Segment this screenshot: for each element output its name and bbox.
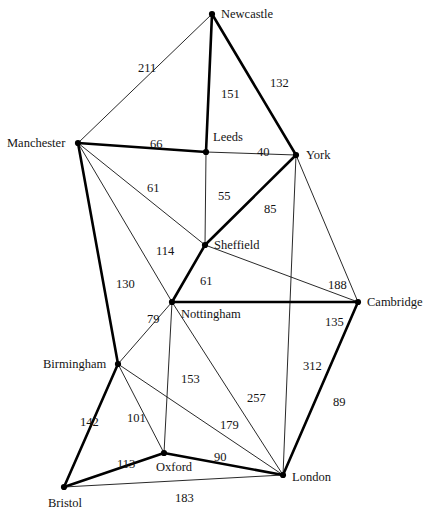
edge-cambridge-london: [283, 302, 358, 475]
node-sheffield: [202, 242, 208, 248]
edge-newcastle-manchester: [78, 14, 212, 143]
edge-newcastle-york: [212, 14, 296, 155]
edge-manchester-sheffield: [78, 143, 205, 245]
edge-oxford-london: [164, 453, 283, 475]
edge-sheffield-cambridge: [205, 245, 358, 302]
node-manchester: [75, 140, 81, 146]
node-leeds: [203, 149, 209, 155]
node-birmingham: [115, 361, 121, 367]
edge-sheffield-nottingham: [172, 245, 205, 302]
graph-edges-layer: [0, 0, 432, 514]
edge-nottingham-birmingham: [118, 302, 172, 364]
node-bristol: [61, 484, 67, 490]
node-london: [280, 472, 286, 478]
node-newcastle: [209, 11, 215, 17]
edge-birmingham-oxford: [118, 364, 164, 453]
graph-canvas: 2111511326661114130405585188312617913515…: [0, 0, 432, 514]
node-oxford: [161, 450, 167, 456]
node-york: [293, 152, 299, 158]
edge-birmingham-london: [118, 364, 283, 475]
edges-group: [64, 14, 358, 487]
edge-york-cambridge: [296, 155, 358, 302]
edge-manchester-leeds: [78, 143, 206, 152]
edge-leeds-york: [206, 152, 296, 155]
edge-york-london: [283, 155, 296, 475]
edge-newcastle-leeds: [206, 14, 212, 152]
nodes-group: [61, 11, 361, 490]
node-nottingham: [169, 299, 175, 305]
edge-york-sheffield: [205, 155, 296, 245]
edge-nottingham-london: [172, 302, 283, 475]
node-cambridge: [355, 299, 361, 305]
edge-birmingham-bristol: [64, 364, 118, 487]
edge-leeds-sheffield: [205, 152, 206, 245]
edge-nottingham-oxford: [164, 302, 172, 453]
